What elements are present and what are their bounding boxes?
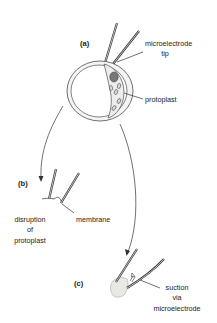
arrow-head-icon <box>125 249 130 256</box>
microelectrode-icon <box>49 169 56 199</box>
microelectrode-icon <box>113 31 139 64</box>
disruption-label-3: protoplast <box>14 236 46 245</box>
arrow-head-icon <box>39 176 44 182</box>
suction-label-2: via <box>172 293 181 302</box>
leader-line <box>140 280 160 288</box>
nucleus-icon <box>110 72 118 82</box>
panel-a: (a) microelectrode tip <box>67 23 192 121</box>
arrow-to-c <box>120 124 136 256</box>
protoplast-microelectrode-diagram: (a) microelectrode tip <box>0 0 217 323</box>
membrane-fragment-icon <box>42 197 62 203</box>
plant-cell-icon <box>67 61 133 121</box>
suction-label-3: microelectrode <box>153 304 200 313</box>
microelectrode-icon <box>61 173 79 203</box>
membrane-label: membrane <box>76 215 110 224</box>
leader-line <box>62 204 74 213</box>
protoplast-label: protoplast <box>145 95 177 104</box>
panel-b-label: (b) <box>18 179 28 188</box>
disruption-label-1: disruption <box>14 215 45 224</box>
panel-c-label: (c) <box>74 279 84 288</box>
arrow-to-b <box>39 106 64 182</box>
panel-a-label: (a) <box>80 39 90 48</box>
microelectrode-tip-label-2: tip <box>161 49 169 58</box>
panel-b: (b) membrane disruption of protoplast <box>14 169 110 245</box>
microelectrode-icon <box>105 23 117 63</box>
suction-label-1: suction <box>166 283 189 292</box>
protoplast-blob-icon <box>111 277 129 297</box>
suction-arrow-icon <box>130 273 135 282</box>
panel-c: (c) suction via microelectrode <box>74 249 201 313</box>
disruption-label-2: of <box>27 225 33 234</box>
microelectrode-tip-label: microelectrode <box>145 39 192 48</box>
